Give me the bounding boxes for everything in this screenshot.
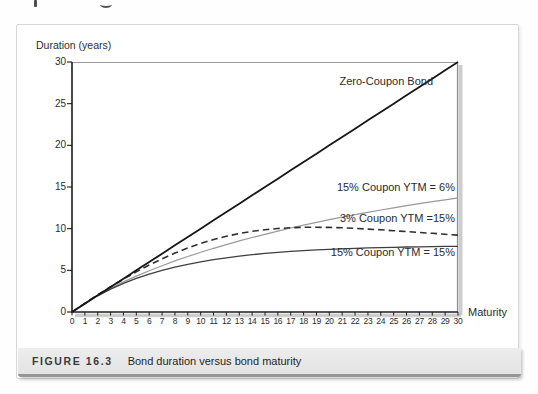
y-tick-label: 0: [40, 306, 66, 318]
x-tick-label: 30: [450, 316, 466, 326]
figure-caption-bar: FIGURE 16.3 Bond duration versus bond ma…: [18, 348, 521, 377]
x-axis-title: Maturity: [468, 306, 507, 318]
series-label-15pct-coupon-ytm-15: 15% Coupon YTM = 15%: [305, 246, 455, 258]
series-label-zero-coupon-bond: Zero-Coupon Bond: [293, 75, 433, 87]
y-tick-label: 10: [40, 223, 66, 235]
y-tick-label: 30: [40, 56, 66, 68]
y-tick-label: 5: [40, 264, 66, 276]
y-tick-label: 15: [40, 181, 66, 193]
series-line-2: [72, 227, 458, 312]
figure-caption: Bond duration versus bond maturity: [128, 355, 302, 367]
series-label-15pct-coupon-ytm-6: 15% Coupon YTM = 6%: [305, 181, 455, 193]
y-tick-label: 20: [40, 139, 66, 151]
plot-area: 051015202530 012345678910111213141516171…: [60, 56, 538, 352]
cropped-text-artifact-1: [34, 0, 37, 7]
textbook-figure-page: Duration (years) 051015202530 0123456789…: [0, 0, 538, 394]
figure-number: FIGURE 16.3: [32, 355, 113, 367]
cropped-text-artifact-2: [100, 1, 112, 8]
series-label-3pct-coupon-ytm-15: 3% Coupon YTM =15%: [305, 212, 455, 224]
y-tick-label: 25: [40, 98, 66, 110]
y-axis-title: Duration (years): [36, 39, 111, 51]
plot-shadow-right: [459, 65, 463, 315]
